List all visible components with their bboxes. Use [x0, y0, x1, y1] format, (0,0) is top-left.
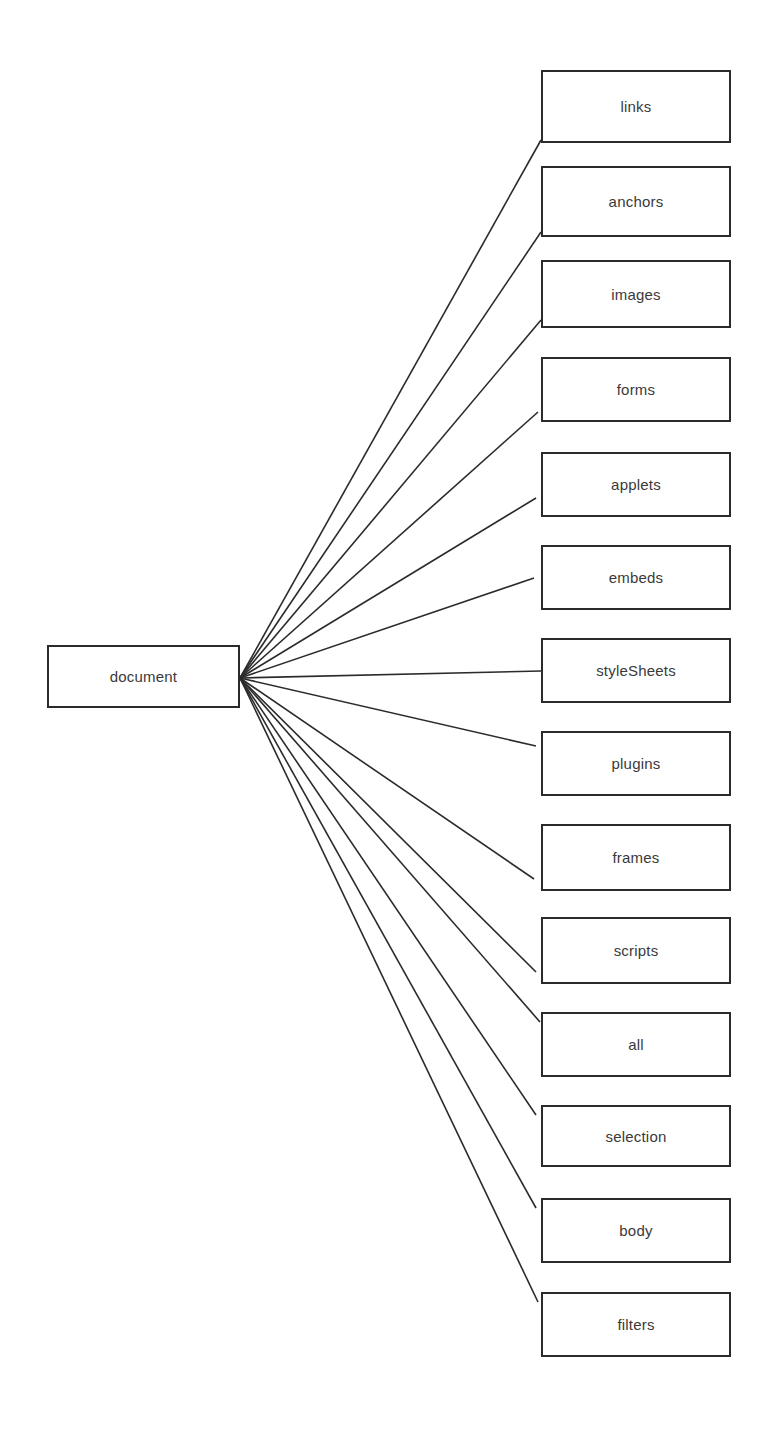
diagram-canvas: document linksanchorsimagesformsappletse… [0, 0, 782, 1432]
node-label-links: links [620, 99, 651, 114]
node-selection[interactable]: selection [541, 1105, 731, 1167]
node-document[interactable]: document [47, 645, 240, 708]
node-label-body: body [619, 1223, 652, 1238]
node-scripts[interactable]: scripts [541, 917, 731, 984]
connector-document-to-selection [240, 678, 536, 1115]
connector-document-to-filters [240, 678, 538, 1302]
node-images[interactable]: images [541, 260, 731, 328]
connector-document-to-forms [240, 412, 538, 678]
node-label-all: all [628, 1037, 644, 1052]
node-label-forms: forms [617, 382, 656, 397]
connector-document-to-links [240, 140, 541, 678]
connector-document-to-scripts [240, 678, 536, 972]
node-label-plugins: plugins [612, 756, 661, 771]
node-label-anchors: anchors [609, 194, 664, 209]
connector-document-to-body [240, 678, 536, 1208]
node-label-embeds: embeds [609, 570, 664, 585]
node-anchors[interactable]: anchors [541, 166, 731, 237]
node-label-selection: selection [605, 1129, 666, 1144]
node-applets[interactable]: applets [541, 452, 731, 517]
connector-document-to-applets [240, 498, 536, 678]
node-embeds[interactable]: embeds [541, 545, 731, 610]
node-forms[interactable]: forms [541, 357, 731, 422]
node-links[interactable]: links [541, 70, 731, 143]
node-label-applets: applets [611, 477, 661, 492]
node-label-filters: filters [617, 1317, 654, 1332]
node-all[interactable]: all [541, 1012, 731, 1077]
node-stylesheets[interactable]: styleSheets [541, 638, 731, 703]
connector-document-to-embeds [240, 578, 534, 678]
node-frames[interactable]: frames [541, 824, 731, 891]
node-plugins[interactable]: plugins [541, 731, 731, 796]
node-filters[interactable]: filters [541, 1292, 731, 1357]
connector-document-to-frames [240, 678, 534, 879]
node-label-scripts: scripts [614, 943, 659, 958]
connector-document-to-anchors [240, 232, 541, 678]
connector-document-to-plugins [240, 678, 536, 746]
node-label-stylesheets: styleSheets [596, 663, 676, 678]
connector-document-to-stylesheets [240, 671, 541, 678]
connector-document-to-images [240, 320, 541, 678]
node-label-document: document [110, 669, 177, 684]
node-label-images: images [611, 287, 661, 302]
connector-document-to-all [240, 678, 540, 1022]
node-body[interactable]: body [541, 1198, 731, 1263]
node-label-frames: frames [612, 850, 659, 865]
